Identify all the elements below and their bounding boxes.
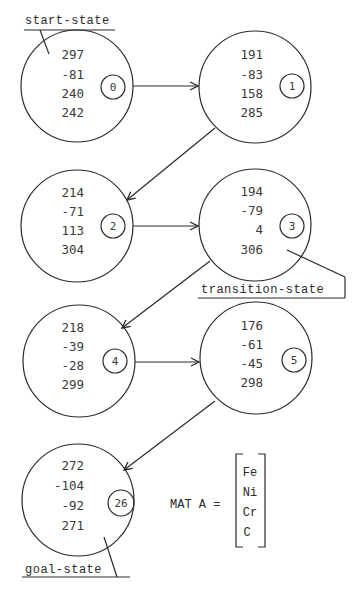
state-node-5: 176 -61 -45 298 5 — [200, 302, 312, 414]
svg-text:-104: -104 — [54, 478, 84, 493]
state-node-0: 297 -81 240 242 0 — [21, 30, 133, 142]
svg-text:5: 5 — [291, 354, 298, 367]
svg-text:304: 304 — [61, 242, 84, 257]
state-node-2: 214 -71 113 304 2 — [21, 170, 133, 282]
svg-text:start-state: start-state — [25, 14, 110, 28]
svg-text:-28: -28 — [61, 358, 84, 373]
svg-text:214: 214 — [61, 185, 84, 200]
svg-text:194: 194 — [240, 184, 263, 199]
svg-text:4: 4 — [255, 222, 263, 237]
svg-text:272: 272 — [61, 458, 84, 473]
svg-text:271: 271 — [61, 518, 84, 533]
state-node-1: 191 -83 158 285 1 — [199, 31, 311, 143]
svg-text:242: 242 — [61, 105, 84, 120]
svg-text:285: 285 — [240, 105, 263, 120]
svg-text:2: 2 — [110, 220, 117, 233]
svg-text:Cr: Cr — [243, 506, 257, 520]
svg-text:26: 26 — [114, 497, 127, 510]
svg-text:-45: -45 — [240, 356, 263, 371]
svg-text:0: 0 — [110, 81, 117, 94]
material-matrix: MAT A = Fe Ni Cr C — [170, 454, 265, 547]
edge-1-2 — [127, 128, 215, 200]
svg-text:297: 297 — [61, 47, 84, 62]
state-transition-diagram: start-state 297 -81 240 242 0 191 -83 15… — [0, 0, 358, 595]
svg-text:218: 218 — [61, 320, 84, 335]
svg-text:Ni: Ni — [243, 486, 257, 500]
svg-text:299: 299 — [61, 377, 84, 392]
svg-text:-79: -79 — [240, 203, 263, 218]
svg-text:goal-state: goal-state — [25, 563, 102, 577]
svg-text:298: 298 — [240, 375, 263, 390]
edge-5-26 — [124, 401, 215, 470]
svg-text:-92: -92 — [61, 498, 84, 513]
edge-3-4 — [122, 261, 210, 328]
svg-text:306: 306 — [240, 242, 263, 257]
svg-text:-83: -83 — [240, 67, 263, 82]
svg-text:191: 191 — [240, 47, 263, 62]
svg-text:240: 240 — [61, 86, 84, 101]
svg-text:1: 1 — [289, 80, 296, 93]
svg-text:3: 3 — [289, 220, 296, 233]
svg-text:MAT A =: MAT A = — [170, 498, 220, 512]
svg-text:158: 158 — [240, 86, 263, 101]
svg-text:113: 113 — [61, 223, 84, 238]
svg-text:transition-state: transition-state — [201, 283, 324, 297]
svg-text:-71: -71 — [61, 204, 84, 219]
svg-text:-61: -61 — [240, 337, 263, 352]
svg-text:-39: -39 — [61, 339, 84, 354]
svg-text:C: C — [243, 526, 250, 540]
transition-state-label: transition-state — [198, 250, 345, 298]
svg-text:176: 176 — [240, 318, 263, 333]
state-node-26: 272 -104 -92 271 26 — [22, 444, 134, 556]
state-node-4: 218 -39 -28 299 4 — [23, 305, 135, 417]
edges — [122, 86, 215, 470]
svg-text:-81: -81 — [61, 67, 84, 82]
state-node-3: 194 -79 4 306 3 — [199, 169, 311, 281]
svg-text:4: 4 — [112, 355, 119, 368]
svg-text:Fe: Fe — [243, 466, 257, 480]
